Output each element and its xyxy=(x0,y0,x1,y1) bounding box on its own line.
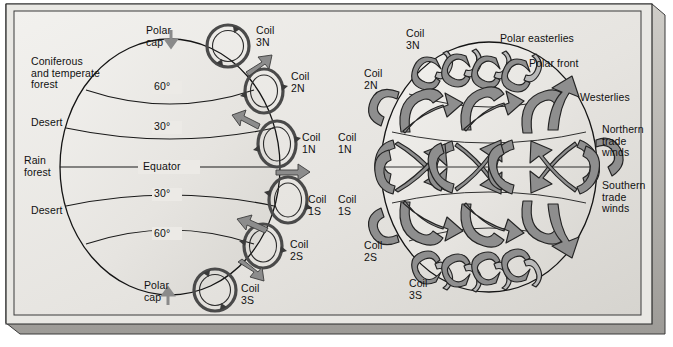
label-polar-easterlies: Polar easterlies xyxy=(500,33,574,45)
label-lat-30n: 30° xyxy=(154,121,170,133)
label-polar-front: Polar front xyxy=(529,58,579,70)
label-polar-cap-south: Polar cap xyxy=(144,280,169,303)
label-westerlies: Westerlies xyxy=(580,92,630,104)
label-left-coil-2n: Coil 2N xyxy=(291,71,310,94)
label-right-coil-3n: Coil 3N xyxy=(406,28,425,51)
label-left-coil-3n: Coil 3N xyxy=(256,25,275,48)
label-right-coil-1s: Coil 1S xyxy=(338,194,357,217)
label-polar-cap-north: Polar cap xyxy=(146,25,171,48)
label-right-coil-3s: Coil 3S xyxy=(409,278,428,301)
label-left-coil-2s: Coil 2S xyxy=(290,239,309,262)
label-right-coil-2n: Coil 2N xyxy=(364,68,383,91)
label-lat-60s: 60° xyxy=(154,228,170,240)
label-right-coil-2s: Coil 2S xyxy=(364,240,383,263)
label-left-coil-1n: Coil 1N xyxy=(302,132,321,155)
label-coniferous-forest: Coniferous and temperate forest xyxy=(31,56,100,91)
label-lat-60n: 60° xyxy=(154,81,170,93)
figure-root: Coniferous and temperate forest Desert R… xyxy=(0,0,673,347)
label-northern-trade-winds: Northern trade winds xyxy=(602,124,644,159)
label-left-coil-3s: Coil 3S xyxy=(241,283,260,306)
label-right-coil-1n: Coil 1N xyxy=(338,132,357,155)
right-globe-svg xyxy=(0,0,673,347)
label-equator: Equator xyxy=(143,161,180,173)
label-rain-forest: Rain forest xyxy=(24,155,51,178)
label-desert-north: Desert xyxy=(31,117,63,129)
label-left-coil-1s: Coil 1S xyxy=(308,194,327,217)
label-southern-trade-winds: Southern trade winds xyxy=(602,180,645,215)
label-desert-south: Desert xyxy=(31,205,63,217)
label-lat-30s: 30° xyxy=(154,188,170,200)
